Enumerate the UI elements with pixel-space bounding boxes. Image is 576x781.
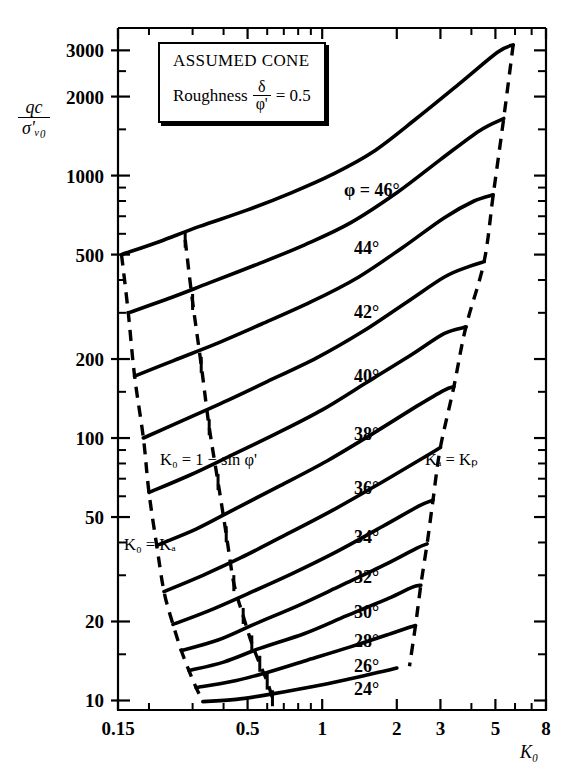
phi-curve [189,585,421,672]
phi-curve-label: 42° [354,302,379,322]
annotation-ka-equals-kp: Kₐ = Kₚ [425,450,478,470]
legend-roughness-label: Roughness [173,86,248,106]
y-tick-label: 500 [76,245,105,266]
phi-curve-label: 26° [354,656,379,676]
phi-curve-label: 34° [354,527,379,547]
y-axis-title-denominator: σ'ᵥ₀ [18,117,50,138]
x-tick-label: 2 [392,718,402,739]
phi-curve-label: 36° [354,478,379,498]
legend-box: ASSUMED CONE Roughness δ φ' = 0.5 [158,42,326,123]
roughness-denominator: φ' [253,95,271,112]
phi-curve-label: 38° [354,424,379,444]
y-tick-label: 200 [76,349,105,370]
x-tick-label: 0.15 [101,718,134,739]
phi-curve [135,195,494,376]
phi-curve-label: 32° [354,567,379,587]
y-tick-label: 1000 [66,166,104,187]
phi-curve-label: 24° [354,679,379,699]
chart-figure: qc σ'ᵥ₀ K₀ ASSUMED CONE Roughness δ φ' =… [0,0,576,781]
y-tick-label: 2000 [66,87,104,108]
y-tick-label: 100 [76,428,105,449]
x-tick-label: 1 [317,718,327,739]
axis-tick-labels: 0.150.512358102050100200500100020003000 [66,40,551,739]
y-tick-label: 50 [85,507,104,528]
phi-curve-label: 28° [354,631,379,651]
curve-labels: φ = 46°44°42°40°38°36°34°32°30°28°26°24° [344,180,400,699]
y-tick-label: 20 [85,611,104,632]
phi-curves [122,45,514,706]
phi-curve-path [135,195,494,376]
x-tick-label: 8 [541,718,551,739]
phi-curve-path [173,500,433,624]
boundary-k0-ka [122,255,203,702]
phi-curve-label: 40° [354,366,379,386]
y-tick-label: 10 [85,690,104,711]
x-tick-label: 3 [436,718,446,739]
y-tick-label: 3000 [66,40,104,61]
boundary-ka-kp [410,45,514,667]
legend-title: ASSUMED CONE [173,51,311,71]
phi-curve-label: φ = 46° [344,180,400,200]
y-axis-title: qc σ'ᵥ₀ [18,98,50,138]
x-tick-label: 0.5 [236,718,260,739]
phi-curve-path [189,585,421,670]
boundary-curves [122,45,514,702]
phi-curve-label: 44° [354,238,379,258]
phi-curve-label: 30° [354,602,379,622]
y-axis-title-numerator: qc [22,98,47,117]
x-tick-label: 5 [491,718,501,739]
legend-roughness-row: Roughness δ φ' = 0.5 [173,79,311,112]
roughness-numerator: δ [255,79,269,95]
legend-roughness-value: = 0.5 [276,86,311,106]
x-axis-title: K₀ [520,742,538,763]
roughness-fraction: δ φ' [253,79,271,112]
annotation-k0-1-minus-sin-phi: K₀ = 1 − sin φ' [160,450,257,470]
phi-curve [173,500,433,624]
annotation-k0-equals-ka: K₀ = Kₐ [124,535,176,555]
